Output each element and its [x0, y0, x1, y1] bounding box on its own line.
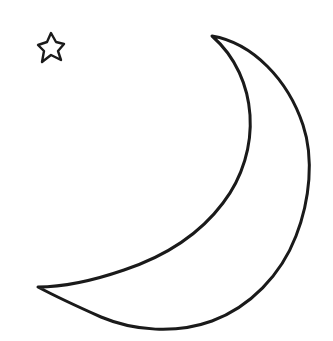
- coloring-page-canvas: Crescent moon with a small star outline …: [0, 0, 333, 341]
- line-art-drawing: [0, 0, 333, 341]
